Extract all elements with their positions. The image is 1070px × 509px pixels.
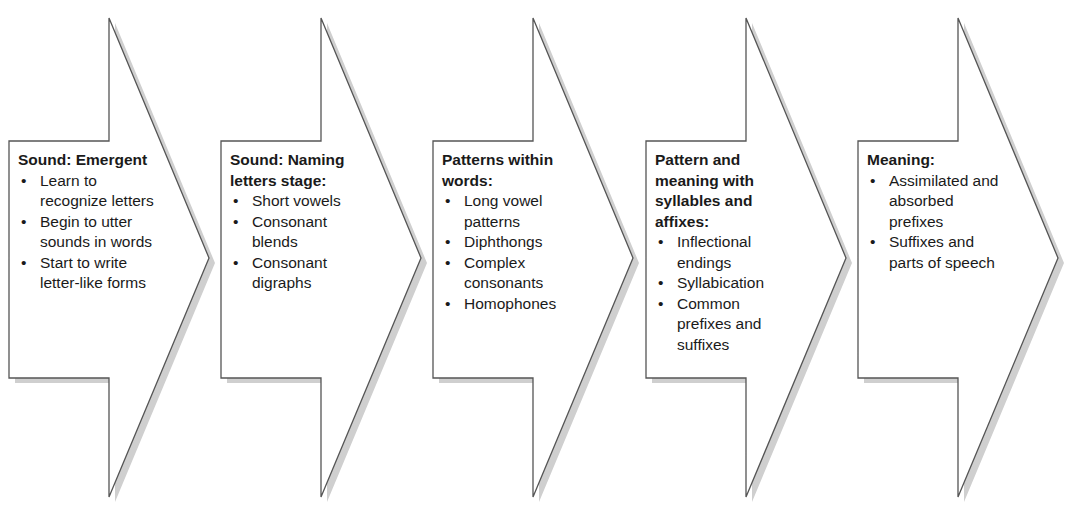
bullet-icon: • xyxy=(21,212,26,233)
bullet-icon: • xyxy=(21,253,26,274)
stage-2-content: Sound: Naming letters stage: •Short vowe… xyxy=(230,150,370,294)
bullet-icon: • xyxy=(658,232,663,253)
bullet-icon: • xyxy=(658,294,663,315)
list-item: •Start to write letter-like forms xyxy=(18,253,168,294)
bullet-icon: • xyxy=(445,232,450,253)
list-item: •Inflectional endings xyxy=(655,232,787,273)
stage-1-title: Sound: Emergent xyxy=(18,150,168,171)
bullet-icon: • xyxy=(445,294,450,315)
list-item: •Consonant digraphs xyxy=(230,253,370,294)
stage-3-content: Patterns within words: •Long vowel patte… xyxy=(442,150,580,314)
bullet-icon: • xyxy=(658,273,663,294)
bullet-icon: • xyxy=(233,212,238,233)
stage-4-list: •Inflectional endings •Syllabication •Co… xyxy=(655,232,787,355)
list-item: •Long vowel patterns xyxy=(442,191,580,232)
bullet-icon: • xyxy=(445,191,450,212)
list-item: •Diphthongs xyxy=(442,232,580,253)
list-item: •Learn to recognize letters xyxy=(18,171,168,212)
list-item: •Suffixes and parts of speech xyxy=(867,232,1012,273)
stage-3-list: •Long vowel patterns •Diphthongs •Comple… xyxy=(442,191,580,314)
spelling-stages-diagram: Sound: Emergent •Learn to recognize lett… xyxy=(0,0,1070,509)
bullet-icon: • xyxy=(445,253,450,274)
list-item: •Begin to utter sounds in words xyxy=(18,212,168,253)
stage-4-title: Pattern and meaning with syllables and a… xyxy=(655,150,787,232)
stage-1-content: Sound: Emergent •Learn to recognize lett… xyxy=(18,150,168,294)
stage-2-title: Sound: Naming letters stage: xyxy=(230,150,370,191)
list-item: •Syllabication xyxy=(655,273,787,294)
bullet-icon: • xyxy=(870,171,875,192)
bullet-icon: • xyxy=(870,232,875,253)
stage-5-list: •Assimilated and absorbed prefixes •Suff… xyxy=(867,171,1012,274)
list-item: •Consonant blends xyxy=(230,212,370,253)
list-item: •Common prefixes and suffixes xyxy=(655,294,787,356)
list-item: •Homophones xyxy=(442,294,580,315)
stage-4-content: Pattern and meaning with syllables and a… xyxy=(655,150,787,355)
list-item: •Complex consonants xyxy=(442,253,580,294)
bullet-icon: • xyxy=(233,253,238,274)
list-item: •Assimilated and absorbed prefixes xyxy=(867,171,1012,233)
stage-5-title: Meaning: xyxy=(867,150,1012,171)
stage-5-content: Meaning: •Assimilated and absorbed prefi… xyxy=(867,150,1012,273)
list-item: •Short vowels xyxy=(230,191,370,212)
bullet-icon: • xyxy=(21,171,26,192)
stage-3-title: Patterns within words: xyxy=(442,150,580,191)
stage-2-list: •Short vowels •Consonant blends •Consona… xyxy=(230,191,370,294)
stage-1-list: •Learn to recognize letters •Begin to ut… xyxy=(18,171,168,294)
bullet-icon: • xyxy=(233,191,238,212)
